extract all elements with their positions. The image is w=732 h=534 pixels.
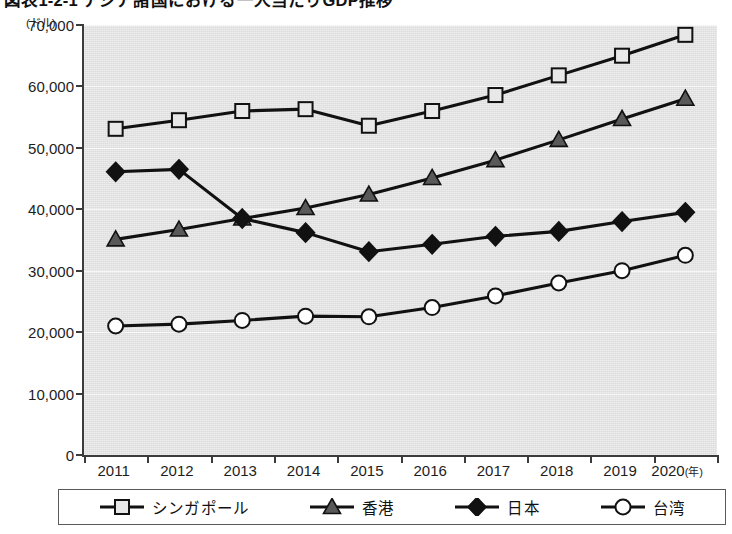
y-axis-tick-label: 30,000 xyxy=(28,262,74,279)
data-point-marker xyxy=(423,235,441,254)
legend-item-1[interactable]: シンガポール xyxy=(99,496,250,518)
page-title: 図表1-2-1 アジア諸国における一人当たりGDP推移 xyxy=(4,0,393,11)
legend-item-label: シンガポール xyxy=(152,496,250,518)
data-point-marker xyxy=(425,104,439,118)
data-point-marker xyxy=(678,248,693,263)
data-point-marker xyxy=(172,113,186,127)
data-point-marker xyxy=(615,49,629,63)
y-axis-tick xyxy=(76,331,84,333)
data-point-marker xyxy=(486,227,504,246)
data-point-marker xyxy=(108,319,123,334)
triangle-marker xyxy=(309,498,355,516)
data-point-marker xyxy=(677,90,694,105)
series-3 xyxy=(107,160,695,261)
data-point-marker xyxy=(550,222,568,241)
x-axis-tick-label: 2011 xyxy=(98,462,130,479)
diamond-marker xyxy=(454,498,500,516)
x-axis-labels: 2011201220132014201520162017201820192020… xyxy=(82,462,722,486)
data-point-marker xyxy=(488,88,502,102)
x-axis-tick-label: 2020(年) xyxy=(651,462,703,479)
data-point-marker xyxy=(678,28,692,42)
y-axis-tick xyxy=(76,270,84,272)
y-axis-tick xyxy=(76,393,84,395)
data-point-marker xyxy=(362,119,376,133)
x-axis-tick-label: 2019 xyxy=(603,462,636,479)
y-axis-tick-label: 0 xyxy=(66,447,74,464)
data-point-marker xyxy=(298,309,313,324)
data-point-marker xyxy=(425,300,440,315)
y-axis-tick xyxy=(76,208,84,210)
legend-item-label: 香港 xyxy=(362,496,395,518)
series-line xyxy=(116,169,686,251)
data-point-marker xyxy=(235,104,249,118)
data-point-marker xyxy=(361,309,376,324)
x-axis-tick-label: 2013 xyxy=(224,462,257,479)
y-axis-tick-label: 70,000 xyxy=(28,17,74,34)
legend-item-label: 台湾 xyxy=(653,496,686,518)
circle-marker xyxy=(600,498,646,516)
data-point-marker xyxy=(615,263,630,278)
y-axis-tick-label: 10,000 xyxy=(28,385,74,402)
x-axis-tick-label: 2017 xyxy=(477,462,510,479)
data-point-marker xyxy=(613,212,631,231)
square-marker xyxy=(99,498,145,516)
legend-item-3[interactable]: 日本 xyxy=(454,496,540,518)
series-line xyxy=(116,255,686,326)
data-point-marker xyxy=(552,68,566,82)
series-4 xyxy=(108,248,693,334)
y-axis-tick xyxy=(76,85,84,87)
data-point-marker xyxy=(107,162,125,181)
x-axis-tick-label: 2015 xyxy=(350,462,383,479)
data-point-marker xyxy=(360,242,378,261)
series-line xyxy=(116,35,686,129)
y-axis-tick xyxy=(76,147,84,149)
x-axis-tick-label: 2014 xyxy=(287,462,320,479)
data-point-marker xyxy=(299,102,313,116)
chart-legend: シンガポール香港日本台湾 xyxy=(58,489,726,525)
x-axis-unit-label: (年) xyxy=(685,466,703,478)
x-axis-tick-label: 2018 xyxy=(540,462,573,479)
data-point-marker xyxy=(297,223,315,242)
data-point-marker xyxy=(109,122,123,136)
x-axis-tick-label: 2016 xyxy=(413,462,446,479)
y-axis-tick xyxy=(76,454,84,456)
legend-item-label: 日本 xyxy=(507,496,540,518)
y-axis-labels: 70,00060,00050,00040,00030,00020,00010,0… xyxy=(0,25,74,455)
y-axis-tick-label: 60,000 xyxy=(28,78,74,95)
data-point-marker xyxy=(235,313,250,328)
y-axis-tick-label: 50,000 xyxy=(28,139,74,156)
data-point-marker xyxy=(676,203,694,222)
data-point-marker xyxy=(551,276,566,291)
y-axis-tick xyxy=(76,24,84,26)
data-point-marker xyxy=(171,317,186,332)
y-axis-tick-label: 20,000 xyxy=(28,324,74,341)
plot-area xyxy=(82,25,717,457)
data-point-marker xyxy=(488,288,503,303)
series-1 xyxy=(109,28,693,136)
figure-container: 図表1-2-1 アジア諸国における一人当たりGDP推移 (ドル) 70,0006… xyxy=(0,0,732,534)
legend-item-2[interactable]: 香港 xyxy=(309,496,395,518)
y-axis-tick-label: 40,000 xyxy=(28,201,74,218)
series-layer xyxy=(84,25,717,455)
legend-item-4[interactable]: 台湾 xyxy=(600,496,686,518)
x-axis-tick-label: 2012 xyxy=(160,462,193,479)
